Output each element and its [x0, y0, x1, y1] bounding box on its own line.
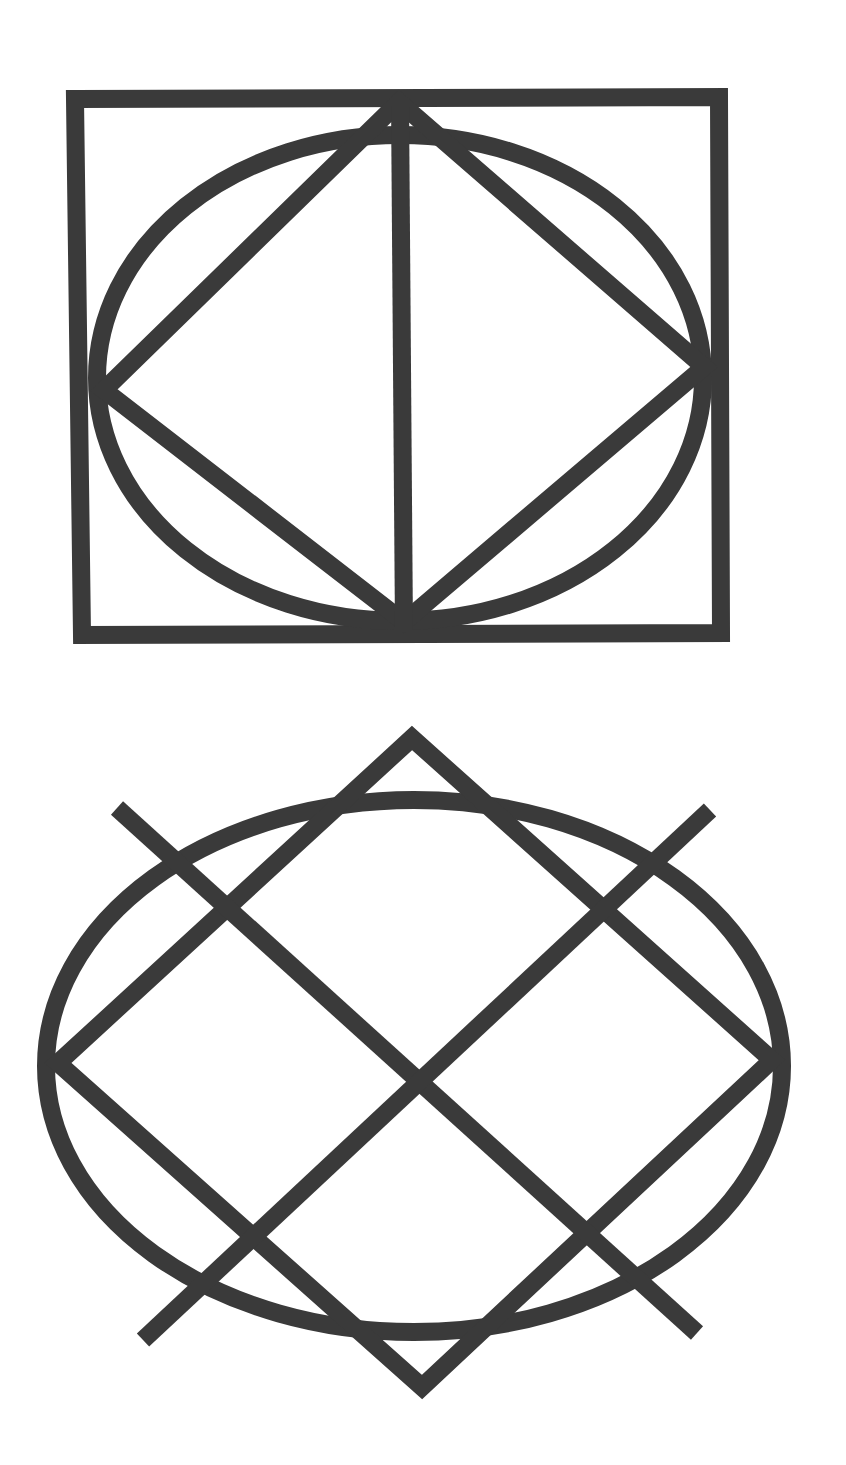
diagonal-line-1 — [117, 808, 697, 1333]
figure-framed-ellipse — [75, 97, 721, 635]
vertical-axis-line — [400, 102, 404, 632]
diamond — [58, 738, 772, 1387]
diagram-canvas — [0, 0, 846, 1465]
figure-ellipse-crossing-lines — [46, 738, 782, 1387]
